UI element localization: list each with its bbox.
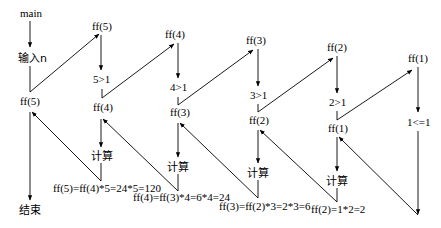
ff4-call-label: ff(4) [165, 28, 185, 41]
main-label: main [20, 7, 42, 19]
ret3-label: ff(3)=ff(2)*3=2*3=6 [219, 200, 311, 213]
ff2-label: ff(2) [249, 114, 269, 127]
arrow-call-ff1 [337, 70, 412, 120]
arrow-return-ff4 [103, 119, 178, 191]
end-label: 结束 [19, 204, 41, 217]
ff3-call-label: ff(3) [246, 34, 266, 47]
arrow-return-ff2 [260, 130, 337, 202]
ff5-call-label: ff(5) [92, 20, 112, 33]
cond4-label: 4>1 [170, 81, 187, 93]
arrow-call-ff2 [258, 58, 333, 112]
arrow-call-ff3 [178, 50, 253, 105]
ff3-label: ff(3) [170, 106, 190, 119]
ff4-label: ff(4) [93, 101, 113, 114]
arrow-return-ff5 [32, 112, 101, 181]
input-label: 输入n [18, 51, 47, 65]
ff1-label: ff(1) [328, 122, 348, 135]
arrow-return-ff3 [180, 123, 258, 198]
ret5-label: ff(5)=ff(4)*5=24*5=120 [53, 182, 162, 195]
calc4-label: 计算 [326, 174, 348, 188]
cond5-label: 5>1 [93, 73, 110, 85]
ff2-call-label: ff(2) [327, 41, 347, 54]
calc2-label: 计算 [167, 160, 189, 174]
arrow-call-ff4 [102, 44, 174, 98]
ret2-label: ff(2)=1*2=2 [311, 203, 365, 216]
cond2-label: 2>1 [329, 96, 346, 108]
cond3-label: 3>1 [250, 89, 267, 101]
recursion-diagram: main 输入n ff(5) 结束 ff(5) 5>1 ff(4) ff(4) … [0, 0, 441, 228]
cond1-label: 1<=1 [407, 116, 430, 128]
calc3-label: 计算 [247, 166, 269, 180]
ff5-main-label: ff(5) [20, 95, 40, 108]
ff1-call-label: ff(1) [408, 52, 428, 65]
calc1-label: 计算 [91, 149, 113, 163]
